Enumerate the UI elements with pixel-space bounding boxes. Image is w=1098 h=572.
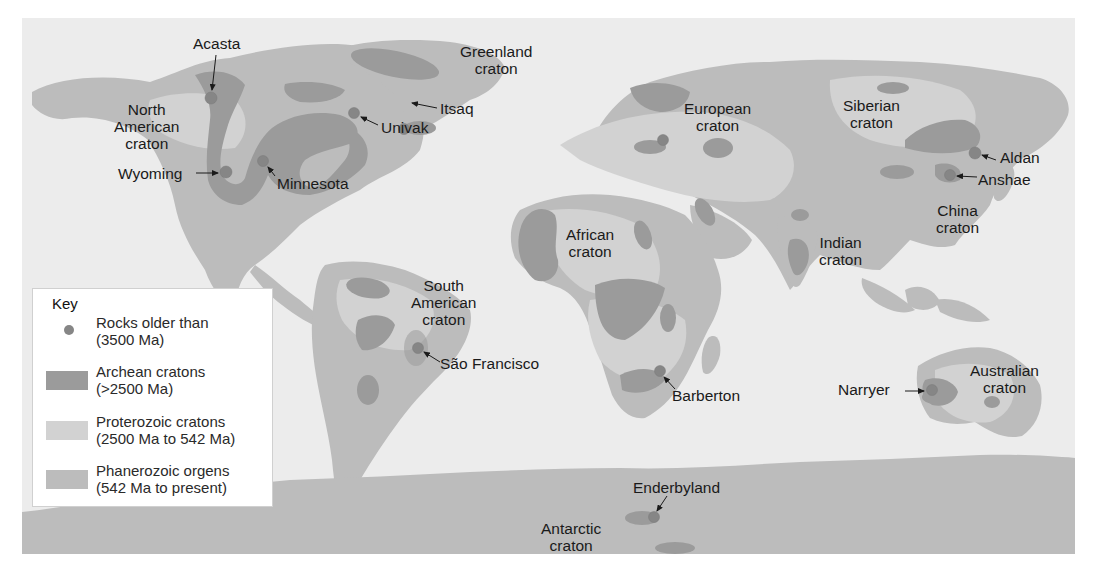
proterozoic-swatch-icon	[46, 421, 88, 440]
key-line: Phanerozoic orgens	[96, 462, 229, 479]
label-line: China	[936, 202, 979, 219]
key-item-text: Archean cratons (>2500 Ma)	[96, 363, 205, 397]
label-line: Australian	[970, 362, 1039, 379]
label-line: Greenland	[460, 43, 532, 60]
label-line: African	[566, 226, 614, 243]
dot-enderbyland	[649, 512, 660, 523]
label-line: European	[684, 100, 751, 117]
label-line: craton	[114, 135, 179, 152]
key-item-text: Rocks older than (3500 Ma)	[96, 314, 209, 348]
site-label-minnesota: Minnesota	[277, 175, 349, 192]
key-title: Key	[52, 295, 78, 312]
key-line: (542 Ma to present)	[96, 479, 229, 496]
site-label-univak: Univak	[381, 119, 428, 136]
dot-minnesota	[258, 156, 269, 167]
label-line: craton	[541, 537, 601, 554]
key-item-phanerozoic: Phanerozoic orgens (542 Ma to present)	[46, 462, 271, 502]
label-line: craton	[411, 311, 476, 328]
key-item-text: Proterozoic cratons (2500 Ma to 542 Ma)	[96, 413, 235, 447]
site-label-barberton: Barberton	[672, 387, 740, 404]
dot-european	[658, 135, 669, 146]
key-line: Proterozoic cratons	[96, 413, 235, 430]
label-line: South	[411, 277, 476, 294]
key-item-old-rocks: Rocks older than (3500 Ma)	[46, 314, 271, 354]
site-label-narryer: Narryer	[838, 381, 890, 398]
label-line: craton	[819, 251, 862, 268]
dot-anshae	[945, 170, 956, 181]
label-australian-craton: Australian craton	[970, 362, 1039, 396]
label-line: Antarctic	[541, 520, 601, 537]
label-china-craton: China craton	[936, 202, 979, 236]
phanerozoic-swatch-icon	[46, 470, 88, 489]
label-siberian-craton: Siberian craton	[843, 97, 900, 131]
label-line: American	[411, 294, 476, 311]
dot-wyoming	[220, 166, 232, 178]
site-label-acasta: Acasta	[193, 35, 240, 52]
label-european-craton: European craton	[684, 100, 751, 134]
dot-sao-francisco	[413, 343, 424, 354]
key-line: Rocks older than	[96, 314, 209, 331]
site-label-aldan: Aldan	[1000, 149, 1040, 166]
label-south-american-craton: South American craton	[411, 277, 476, 328]
label-line: North	[114, 101, 179, 118]
key-line: (2500 Ma to 542 Ma)	[96, 430, 235, 447]
dot-aldan	[969, 147, 981, 159]
label-north-american-craton: North American craton	[114, 101, 179, 152]
label-line: craton	[566, 243, 614, 260]
dot-acasta	[205, 92, 217, 104]
map-key: Key Rocks older than (3500 Ma) Archean c…	[32, 288, 273, 507]
site-label-wyoming: Wyoming	[118, 165, 182, 182]
label-line: craton	[684, 117, 751, 134]
key-line: Archean cratons	[96, 363, 205, 380]
label-greenland-craton: Greenland craton	[460, 43, 532, 77]
old-rock-dot-icon	[64, 325, 74, 335]
site-label-itsaq: Itsaq	[440, 100, 474, 117]
label-line: Siberian	[843, 97, 900, 114]
site-label-sao-francisco: São Francisco	[440, 355, 539, 372]
key-line: (3500 Ma)	[96, 331, 209, 348]
key-line: (>2500 Ma)	[96, 380, 205, 397]
label-line: craton	[936, 219, 979, 236]
dot-univak	[349, 108, 360, 119]
label-indian-craton: Indian craton	[819, 234, 862, 268]
key-item-text: Phanerozoic orgens (542 Ma to present)	[96, 462, 229, 496]
label-line: American	[114, 118, 179, 135]
label-line: craton	[970, 379, 1039, 396]
label-line: Indian	[819, 234, 862, 251]
label-african-craton: African craton	[566, 226, 614, 260]
label-antarctic-craton: Antarctic craton	[541, 520, 601, 554]
key-item-archean: Archean cratons (>2500 Ma)	[46, 363, 271, 403]
site-label-enderbyland: Enderbyland	[633, 479, 720, 496]
label-line: craton	[460, 60, 532, 77]
key-item-proterozoic: Proterozoic cratons (2500 Ma to 542 Ma)	[46, 413, 271, 453]
dot-barberton	[655, 366, 666, 377]
dot-narryer	[927, 385, 938, 396]
archean-swatch-icon	[46, 371, 88, 390]
site-label-anshae: Anshae	[978, 171, 1031, 188]
label-line: craton	[843, 114, 900, 131]
